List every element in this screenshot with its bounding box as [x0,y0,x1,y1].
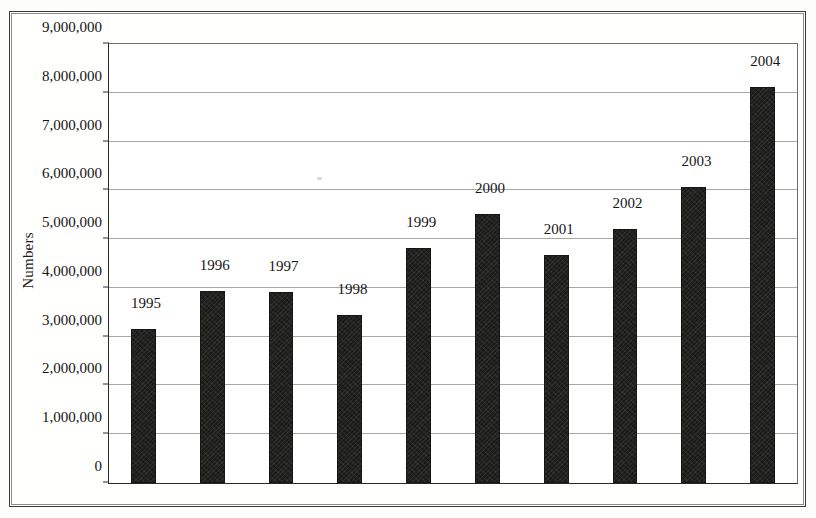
bar-slot: 2002 [591,44,660,483]
bar-slot: 2004 [728,44,797,483]
bar-value-label: 1997 [269,258,294,275]
bar-slot: 1999 [384,44,453,483]
y-tick-label: 0 [95,458,103,475]
bar-value-label: 1996 [200,257,225,274]
bar-slot: 1996 [178,44,247,483]
bar-value-label: 1999 [406,214,431,231]
y-tick-label: 5,000,000 [42,214,102,231]
bar-value-label: 2000 [475,180,500,197]
y-tick-label: 4,000,000 [42,262,102,279]
bar-slot: 2000 [453,44,522,483]
bar-slot: 1998 [315,44,384,483]
bar-chart-figure: Numbers 01,000,0002,000,0003,000,0004,00… [0,0,816,518]
y-tick-label: 6,000,000 [42,165,102,182]
bar [475,214,500,483]
bar [131,329,156,483]
bar [406,248,431,483]
y-tick-label: 1,000,000 [42,409,102,426]
bar-value-label: 1998 [337,281,362,298]
y-tick-label: 2,000,000 [42,360,102,377]
bar [337,315,362,483]
bar-slot: 1995 [109,44,178,483]
y-tick-label: 7,000,000 [42,116,102,133]
y-axis-title-label: Numbers [20,232,37,288]
bar-value-label: 2003 [681,153,706,170]
bar-slot: 2001 [522,44,591,483]
bar [544,255,569,483]
y-tick-label: 8,000,000 [42,67,102,84]
bar-slot: 2003 [659,44,728,483]
bar [613,229,638,483]
bar-value-label: 1995 [131,295,156,312]
bar-slot: 1997 [247,44,316,483]
bar-value-label: 2001 [544,221,569,238]
scan-artifact-speck [317,177,322,180]
bar-value-label: 2002 [613,195,638,212]
bar [681,187,706,483]
y-tick-label: 3,000,000 [42,311,102,328]
y-tick-label: 9,000,000 [42,19,102,36]
bar [269,292,294,483]
plot-area: 01,000,0002,000,0003,000,0004,000,0005,0… [108,43,798,484]
bar [750,87,775,483]
bar [200,291,225,483]
y-axis-title: Numbers [14,190,42,330]
bar-value-label: 2004 [750,53,775,70]
